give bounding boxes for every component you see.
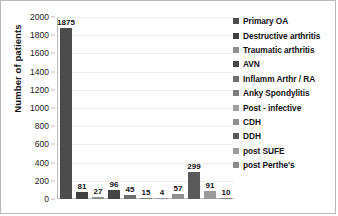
y-tick-label: 1200 xyxy=(30,85,49,95)
legend-label: DDH xyxy=(243,131,261,141)
bar-series: 187581279645154572999110 xyxy=(58,17,234,199)
bar-value-label: 27 xyxy=(94,187,103,196)
legend-item[interactable]: Inflamm Arthr / RA xyxy=(233,72,333,86)
legend-swatch-icon xyxy=(233,76,239,82)
bar: 81 xyxy=(76,192,88,199)
legend-label: CDH xyxy=(243,117,261,127)
legend-swatch-icon xyxy=(233,18,239,24)
legend-swatch-icon xyxy=(233,133,239,139)
legend-label: Post - infective xyxy=(243,103,301,113)
bar: 91 xyxy=(204,191,216,199)
y-tick-mark xyxy=(51,162,55,163)
legend-item[interactable]: Primary OA xyxy=(233,14,333,28)
bar-value-label: 81 xyxy=(78,182,87,191)
bar-slot: 299 xyxy=(186,17,202,199)
y-tick-label: 800 xyxy=(35,121,49,131)
legend-item[interactable]: Post - infective xyxy=(233,100,333,114)
legend-label: Traumatic arthritis xyxy=(243,45,314,55)
bar-slot: 91 xyxy=(202,17,218,199)
y-tick-mark xyxy=(51,180,55,181)
y-tick-label: 400 xyxy=(35,158,49,168)
bar: 299 xyxy=(188,172,200,199)
plot-area: 187581279645154572999110 xyxy=(58,17,234,199)
bar: 27 xyxy=(92,197,104,199)
bar-slot: 4 xyxy=(154,17,170,199)
legend-swatch-icon xyxy=(233,105,239,111)
legend-label: post SUFE xyxy=(243,146,285,156)
bar-slot: 96 xyxy=(106,17,122,199)
bar-value-label: 4 xyxy=(160,188,164,197)
legend-swatch-icon xyxy=(233,47,239,53)
legend-label: Primary OA xyxy=(243,16,288,26)
bar-slot: 57 xyxy=(170,17,186,199)
bar-value-label: 1875 xyxy=(57,18,75,27)
bar: 1875 xyxy=(60,28,72,199)
y-tick-label: 1400 xyxy=(30,67,49,77)
bar-value-label: 45 xyxy=(126,185,135,194)
bar: 4 xyxy=(156,198,168,199)
bar: 10 xyxy=(220,198,232,199)
y-tick-label: 1800 xyxy=(30,30,49,40)
legend-label: Anky Spondylitis xyxy=(243,88,310,98)
y-tick-label: 600 xyxy=(35,139,49,149)
y-tick-label: 200 xyxy=(35,176,49,186)
legend: Primary OADestructive arthritisTraumatic… xyxy=(233,14,333,172)
y-tick-mark xyxy=(51,89,55,90)
bar-slot: 45 xyxy=(122,17,138,199)
legend-label: AVN xyxy=(243,59,260,69)
legend-item[interactable]: AVN xyxy=(233,57,333,71)
bar-value-label: 57 xyxy=(174,184,183,193)
bar-value-label: 96 xyxy=(110,180,119,189)
legend-item[interactable]: Traumatic arthritis xyxy=(233,43,333,57)
bar: 96 xyxy=(108,190,120,199)
y-tick-label: 1000 xyxy=(30,103,49,113)
y-tick-mark xyxy=(51,199,55,200)
legend-item[interactable]: post SUFE xyxy=(233,144,333,158)
y-tick-mark xyxy=(51,35,55,36)
legend-item[interactable]: DDH xyxy=(233,129,333,143)
bar-value-label: 15 xyxy=(142,188,151,197)
legend-item[interactable]: Anky Spondylitis xyxy=(233,86,333,100)
y-tick-mark xyxy=(51,71,55,72)
y-tick-label: 0 xyxy=(44,194,49,204)
legend-item[interactable]: post Perthe's xyxy=(233,158,333,172)
legend-label: Destructive arthritis xyxy=(243,31,320,41)
y-tick-mark xyxy=(51,17,55,18)
bar-slot: 81 xyxy=(74,17,90,199)
legend-swatch-icon xyxy=(233,90,239,96)
bar: 45 xyxy=(124,195,136,199)
bar: 57 xyxy=(172,194,184,199)
y-tick-mark xyxy=(51,144,55,145)
legend-label: post Perthe's xyxy=(243,160,295,170)
bar-chart: Number of patients 200018001600140012001… xyxy=(0,0,336,214)
bar-value-label: 299 xyxy=(187,162,200,171)
bar-slot: 10 xyxy=(218,17,234,199)
y-axis-tick-labels: 2000180016001400120010008006004002000 xyxy=(1,17,56,199)
legend-swatch-icon xyxy=(233,33,239,39)
legend-swatch-icon xyxy=(233,61,239,67)
bar-slot: 27 xyxy=(90,17,106,199)
y-tick-mark xyxy=(51,126,55,127)
bar-slot: 15 xyxy=(138,17,154,199)
bar-slot: 1875 xyxy=(58,17,74,199)
legend-item[interactable]: CDH xyxy=(233,115,333,129)
legend-swatch-icon xyxy=(233,162,239,168)
y-tick-mark xyxy=(51,108,55,109)
y-tick-mark xyxy=(51,53,55,54)
y-tick-label: 1600 xyxy=(30,48,49,58)
legend-swatch-icon xyxy=(233,148,239,154)
bar-value-label: 91 xyxy=(206,181,215,190)
legend-item[interactable]: Destructive arthritis xyxy=(233,28,333,42)
bar-value-label: 10 xyxy=(222,188,231,197)
y-tick-label: 2000 xyxy=(30,12,49,22)
legend-swatch-icon xyxy=(233,119,239,125)
bar: 15 xyxy=(140,198,152,199)
legend-label: Inflamm Arthr / RA xyxy=(243,74,315,84)
